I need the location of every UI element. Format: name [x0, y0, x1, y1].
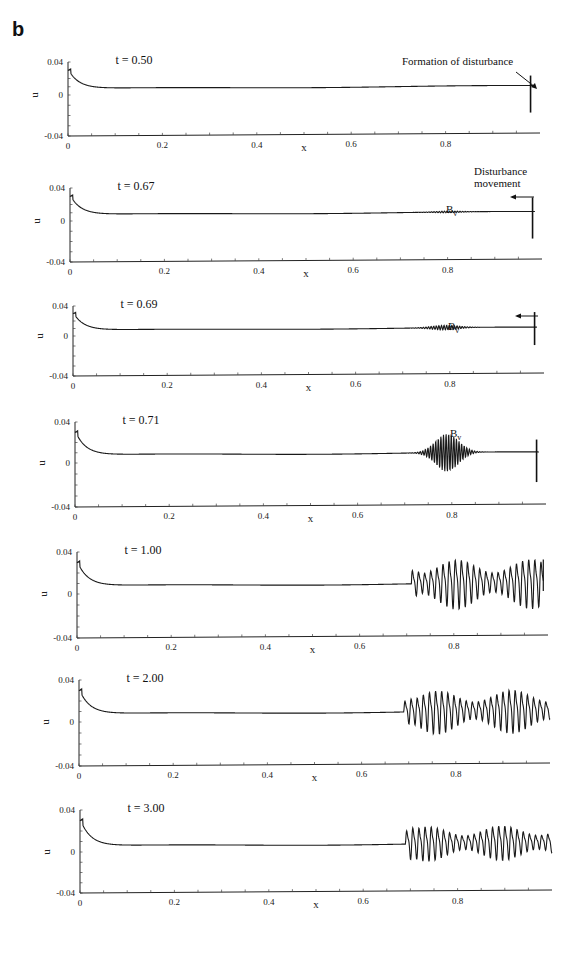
x-tick-label: 0.2	[157, 140, 168, 150]
y-tick-label: -0.04	[56, 888, 75, 898]
data-line	[75, 431, 539, 472]
x-tick-label: 0.6	[356, 769, 368, 779]
x-axis-label: x	[306, 381, 312, 393]
x-tick-label: 0.2	[164, 511, 175, 521]
x-tick-label: 0.8	[452, 896, 464, 906]
x-tick-label: 0	[78, 898, 83, 908]
y-axis-label: u	[39, 719, 51, 725]
x-tick-label: 0.8	[442, 265, 454, 275]
data-line	[77, 560, 543, 609]
panel-title: t = 0.71	[122, 413, 159, 427]
x-tick-label: 0	[68, 267, 73, 277]
chart-panel-1: 0.040-0.0400.20.40.60.8xut = 0.50	[28, 53, 540, 153]
x-tick-label: 0.6	[352, 510, 364, 520]
y-tick-label: 0	[68, 589, 73, 599]
panel-title: t = 3.00	[128, 801, 165, 815]
y-tick-label: -0.04	[55, 761, 74, 771]
panel-title: t = 0.69	[120, 297, 157, 311]
figure-canvas: b 0.040-0.0400.20.40.60.8xut = 0.500.040…	[0, 0, 583, 963]
data-line	[80, 819, 552, 862]
chart-panel-7: 0.040-0.0400.20.40.60.8xut = 3.00	[40, 801, 552, 910]
y-tick-label: -0.04	[44, 131, 63, 141]
data-line	[70, 195, 535, 214]
y-axis-label: u	[37, 591, 49, 597]
panel-title: t = 0.67	[118, 179, 155, 193]
y-axis-label: u	[33, 333, 45, 339]
x-tick-label: 0.4	[258, 511, 270, 521]
y-tick-label: 0	[61, 216, 66, 226]
x-tick-label: 0.2	[159, 266, 170, 276]
chart-panel-5: 0.040-0.0400.20.40.60.8xut = 1.00	[37, 543, 548, 655]
x-tick-label: 0.2	[162, 380, 173, 390]
arrowhead-icon	[515, 314, 521, 319]
chart-panel-6: 0.040-0.0400.20.40.60.8xut = 2.00	[39, 671, 550, 783]
y-tick-label: 0	[70, 717, 75, 727]
y-tick-label: 0.04	[58, 675, 74, 685]
annotation-movement-line2: movement	[474, 177, 520, 189]
y-axis-label: u	[35, 460, 47, 466]
x-tick-label: 0	[77, 771, 82, 781]
chart-panel-3: 0.040-0.0400.20.40.60.8xut = 0.69	[33, 297, 544, 393]
x-axis-label: x	[313, 898, 319, 910]
x-tick-label: 0.4	[256, 380, 268, 390]
x-tick-label: 0.4	[263, 897, 275, 907]
chart-panel-2: 0.040-0.0400.20.40.60.8xut = 0.67	[30, 179, 542, 279]
y-tick-label: 0.04	[59, 805, 75, 815]
x-tick-label: 0.8	[444, 379, 456, 389]
bv-label: Bv	[448, 320, 459, 335]
y-tick-label: 0.04	[49, 183, 65, 193]
panel-title: t = 1.00	[124, 543, 161, 557]
x-axis-label: x	[310, 643, 316, 655]
x-tick-label: 0.6	[346, 139, 358, 149]
y-tick-label: 0	[71, 847, 76, 857]
x-tick-label: 0.4	[260, 642, 272, 652]
y-tick-label: 0.04	[47, 57, 63, 67]
annotation-formation: Formation of disturbance	[402, 55, 513, 67]
y-tick-label: -0.04	[49, 371, 68, 381]
x-tick-label: 0.4	[251, 140, 263, 150]
panel-title: t = 0.50	[116, 53, 153, 67]
panel-letter: b	[12, 18, 24, 40]
x-tick-label: 0.8	[450, 769, 462, 779]
x-tick-label: 0.8	[446, 510, 458, 520]
x-tick-label: 0.6	[350, 379, 362, 389]
y-tick-label: 0	[66, 458, 71, 468]
x-tick-label: 0.4	[262, 770, 274, 780]
x-axis-label: x	[301, 141, 307, 153]
annotation-arrow	[516, 72, 535, 87]
x-tick-label: 0.2	[169, 897, 180, 907]
x-tick-label: 0.6	[354, 641, 366, 651]
data-line	[68, 69, 533, 88]
y-axis-label: u	[28, 92, 40, 98]
y-tick-label: 0.04	[56, 547, 72, 557]
x-tick-label: 0	[66, 141, 71, 151]
y-tick-label: -0.04	[53, 633, 72, 643]
y-tick-label: 0	[64, 331, 69, 341]
data-line	[73, 312, 537, 330]
x-tick-label: 0.6	[358, 896, 370, 906]
x-tick-label: 0	[75, 643, 80, 653]
x-tick-label: 0.8	[448, 641, 460, 651]
arrowhead-icon	[510, 195, 516, 200]
chart-panel-4: 0.040-0.0400.20.40.60.8xut = 0.71	[35, 413, 546, 524]
x-axis-label: x	[303, 267, 309, 279]
x-tick-label: 0.4	[253, 266, 265, 276]
x-tick-label: 0.2	[168, 770, 179, 780]
y-tick-label: -0.04	[46, 257, 65, 267]
x-axis-label: x	[308, 512, 314, 524]
y-tick-label: 0	[59, 90, 64, 100]
y-tick-label: 0.04	[52, 301, 68, 311]
y-tick-label: -0.04	[51, 502, 70, 512]
x-tick-label: 0.8	[440, 139, 452, 149]
x-axis-label: x	[312, 771, 318, 783]
x-tick-label: 0.6	[348, 265, 360, 275]
y-axis-label: u	[30, 218, 42, 224]
y-tick-label: 0.04	[54, 417, 70, 427]
data-line	[79, 689, 550, 734]
annotation-movement-line1: Disturbance	[474, 165, 527, 177]
x-tick-label: 0.2	[166, 642, 177, 652]
panel-title: t = 2.00	[126, 671, 163, 685]
y-axis-label: u	[40, 849, 52, 855]
x-tick-label: 0	[73, 512, 78, 522]
bv-label: Bv	[446, 203, 457, 218]
